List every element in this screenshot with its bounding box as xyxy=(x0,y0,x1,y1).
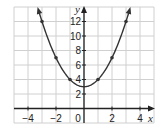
data-point xyxy=(96,78,100,82)
y-tick-label: 10 xyxy=(70,31,82,42)
data-point xyxy=(124,20,128,24)
y-tick-label: 6 xyxy=(75,60,81,71)
data-point xyxy=(40,20,44,24)
curve-arrow-icon xyxy=(126,7,131,15)
y-tick-label: 2 xyxy=(75,89,81,100)
x-tick-label: 4 xyxy=(137,113,143,124)
y-tick-label: 8 xyxy=(75,45,81,56)
x-tick-label: 0 xyxy=(75,113,81,124)
y-axis-label: y xyxy=(74,3,80,15)
parabola-chart: −4−202424681012 x y xyxy=(0,0,163,133)
x-tick-label: 2 xyxy=(109,113,115,124)
x-axis-label: x xyxy=(147,112,153,124)
y-tick-label: 12 xyxy=(70,16,82,27)
y-tick-label: 4 xyxy=(75,74,81,85)
data-point xyxy=(110,56,114,60)
data-point xyxy=(54,56,58,60)
tick-labels: −4−202424681012 xyxy=(22,16,143,124)
x-tick-label: −2 xyxy=(50,113,62,124)
curve-arrow-icon xyxy=(37,7,42,15)
data-point xyxy=(68,78,72,82)
x-tick-label: −4 xyxy=(22,113,34,124)
